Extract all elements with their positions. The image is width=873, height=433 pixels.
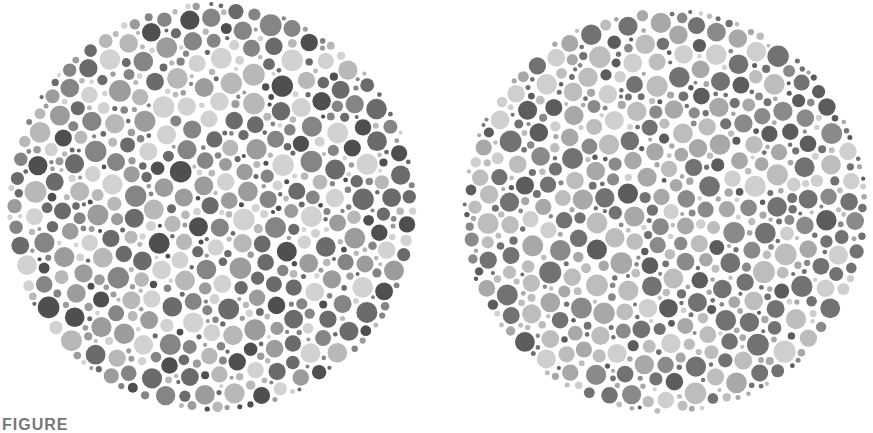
dot — [355, 119, 371, 135]
dot — [234, 67, 238, 71]
dot — [662, 260, 669, 267]
dot — [26, 119, 32, 125]
dot — [94, 274, 105, 285]
dot — [640, 384, 645, 389]
dot — [72, 202, 80, 210]
dot — [219, 158, 232, 171]
dot — [128, 356, 134, 362]
dot — [68, 175, 75, 182]
dot — [587, 240, 607, 260]
dot — [102, 174, 122, 194]
dot — [202, 305, 212, 315]
dot — [661, 334, 680, 353]
dot — [128, 157, 135, 164]
dot — [7, 215, 12, 220]
dot — [622, 385, 641, 404]
dot — [837, 188, 843, 194]
dot — [797, 109, 815, 127]
dot — [110, 71, 115, 76]
dot — [564, 83, 583, 102]
dot — [340, 316, 345, 321]
dot — [559, 346, 575, 362]
dot — [642, 257, 659, 274]
dot — [511, 113, 515, 117]
dot — [756, 32, 764, 40]
dot — [125, 231, 138, 244]
dot — [269, 381, 273, 385]
dot — [146, 133, 151, 138]
dot — [677, 13, 688, 24]
dot — [464, 212, 469, 217]
dot — [616, 402, 622, 408]
dot — [215, 152, 222, 159]
dot — [539, 169, 545, 175]
dot — [749, 382, 755, 388]
dot — [124, 166, 140, 182]
dot — [556, 68, 567, 79]
dot — [177, 58, 185, 66]
dot — [254, 224, 263, 233]
dot — [202, 9, 220, 27]
dot — [74, 264, 92, 282]
dot — [764, 74, 785, 95]
dot — [313, 175, 328, 190]
dot — [810, 310, 817, 317]
dot — [579, 52, 587, 60]
dot — [719, 201, 735, 217]
dot — [541, 330, 559, 348]
dot — [579, 360, 585, 366]
dot — [766, 44, 770, 48]
dot — [858, 233, 865, 240]
dot — [552, 42, 557, 47]
dot — [292, 98, 311, 117]
dot — [562, 364, 578, 380]
dot — [761, 329, 765, 333]
dot — [99, 34, 113, 48]
dot — [795, 236, 799, 240]
dot — [844, 128, 849, 133]
dot — [260, 191, 277, 208]
dot — [179, 354, 190, 365]
dot — [659, 299, 678, 318]
dot — [379, 313, 385, 319]
dot — [306, 191, 320, 205]
dot — [120, 228, 125, 233]
dot — [189, 217, 208, 236]
dot — [155, 178, 174, 197]
dot — [743, 242, 760, 259]
dot — [134, 111, 155, 132]
dot — [179, 403, 184, 408]
dot — [600, 182, 605, 187]
dot — [85, 166, 101, 182]
dot — [82, 112, 101, 131]
dot — [240, 316, 245, 321]
dot — [794, 262, 801, 269]
dot — [248, 8, 260, 20]
dot — [265, 217, 286, 238]
dot — [116, 246, 132, 262]
dot — [655, 408, 661, 414]
dot — [643, 340, 656, 353]
dot — [506, 326, 515, 335]
dot — [509, 237, 517, 245]
dot — [272, 102, 290, 120]
dot — [374, 256, 379, 261]
dot — [603, 209, 607, 213]
dot — [208, 170, 215, 177]
dot — [302, 117, 322, 137]
dot — [593, 303, 614, 324]
dot — [500, 193, 519, 212]
dot — [272, 397, 277, 402]
dot — [758, 357, 764, 363]
dot — [693, 81, 697, 85]
dot — [636, 256, 640, 260]
dot — [693, 39, 706, 52]
dot — [370, 208, 374, 212]
dot — [553, 156, 557, 160]
dot — [222, 140, 238, 156]
dot — [724, 188, 733, 197]
dot — [7, 199, 21, 213]
dot — [499, 323, 504, 328]
dot — [290, 151, 295, 156]
dot — [247, 401, 253, 407]
